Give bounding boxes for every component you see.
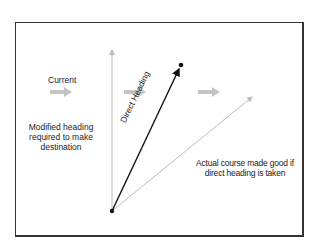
direct-heading-vector bbox=[112, 69, 179, 211]
modified-heading-label: Modified heading required to make destin… bbox=[22, 122, 100, 152]
actual-course-label: Actual course made good if direct headin… bbox=[190, 158, 300, 178]
current-arrow-icon bbox=[50, 87, 72, 97]
actual-course-vector bbox=[112, 97, 252, 211]
origin-point bbox=[110, 209, 114, 213]
current-label: Current bbox=[48, 75, 76, 85]
destination-point bbox=[179, 63, 184, 68]
current-arrow-icon bbox=[198, 87, 220, 97]
